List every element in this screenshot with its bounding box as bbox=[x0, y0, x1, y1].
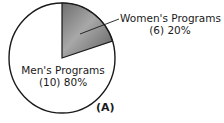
panel-label: (A) bbox=[96, 101, 115, 114]
mens-programs-label: Men's Programs (10) 80% bbox=[18, 64, 108, 88]
womens-programs-title: Women's Programs bbox=[120, 12, 220, 24]
mens-programs-value: (10) 80% bbox=[18, 76, 108, 88]
womens-programs-value: (6) 20% bbox=[120, 24, 220, 36]
mens-programs-title: Men's Programs bbox=[18, 64, 108, 76]
womens-programs-label: Women's Programs (6) 20% bbox=[120, 12, 220, 36]
pie-chart: Women's Programs (6) 20% Men's Programs … bbox=[0, 0, 224, 123]
